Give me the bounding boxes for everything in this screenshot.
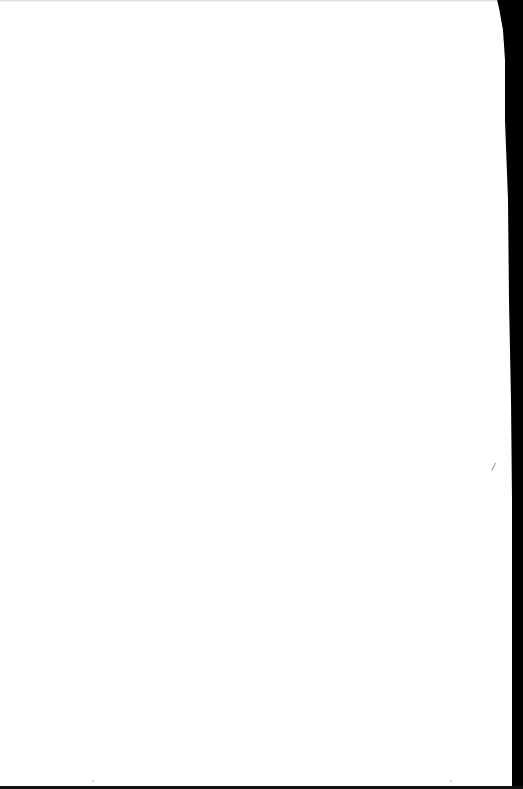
- top-edge-shadow: [0, 0, 500, 2]
- paper-speck: [450, 780, 452, 782]
- edge-mark: /: [492, 462, 495, 472]
- paper-speck: [92, 780, 94, 782]
- blank-page: [0, 0, 523, 786]
